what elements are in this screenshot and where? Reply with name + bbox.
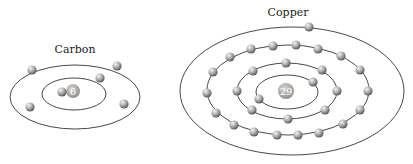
atom-label: Copper	[268, 6, 310, 19]
atom-copper: Copper29	[180, 6, 404, 155]
atom-label: Carbon	[55, 43, 96, 56]
electron	[304, 22, 313, 31]
electron	[112, 61, 121, 70]
electron	[268, 41, 277, 50]
electron	[355, 105, 364, 114]
atom-diagram: Carbon6Copper29	[0, 0, 413, 164]
electron	[355, 65, 364, 74]
electron	[246, 44, 255, 53]
electron	[229, 120, 238, 129]
electron	[338, 119, 347, 128]
electron	[232, 86, 241, 95]
electron	[314, 128, 323, 137]
electron	[202, 88, 211, 97]
electron	[57, 87, 66, 96]
electron	[291, 40, 300, 49]
electron	[247, 105, 256, 114]
electron	[320, 105, 329, 114]
electron	[95, 73, 104, 82]
electron	[211, 108, 220, 117]
electron	[27, 65, 36, 74]
electron	[281, 58, 290, 67]
electron	[208, 67, 217, 76]
atomic-number: 6	[70, 86, 76, 97]
electron	[283, 114, 292, 123]
electron	[225, 52, 234, 61]
electron	[272, 130, 281, 139]
electron	[248, 66, 257, 75]
electron	[119, 99, 128, 108]
electron	[293, 130, 302, 139]
electron	[308, 77, 317, 86]
electron	[363, 86, 372, 95]
electron	[336, 51, 345, 60]
electron	[332, 86, 341, 95]
electron	[313, 44, 322, 53]
electron	[249, 127, 258, 136]
atomic-number: 29	[280, 86, 293, 97]
electron	[254, 94, 263, 103]
atom-carbon: Carbon6	[10, 43, 140, 129]
electron	[317, 65, 326, 74]
electron	[25, 102, 34, 111]
